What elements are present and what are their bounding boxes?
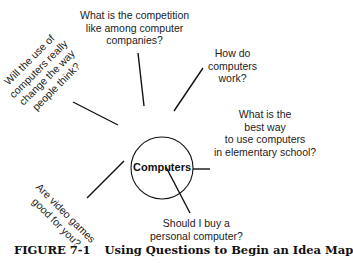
question-line: like among computer — [80, 22, 189, 35]
center-topic: Computers — [131, 161, 193, 173]
question-line: Should I buy a — [150, 217, 243, 230]
question-line: personal computer? — [150, 230, 243, 243]
spoke-how-work — [174, 68, 203, 111]
question-line: computers — [208, 60, 257, 73]
question-line: What is the — [214, 108, 316, 121]
figure-caption: FIGURE 7-1 Using Questions to Begin an I… — [14, 243, 353, 257]
question-buy: Should I buy a personal computer? — [150, 217, 243, 242]
spoke-competition — [138, 53, 144, 106]
spoke-buy — [166, 167, 190, 213]
spoke-video-games — [87, 161, 124, 198]
question-how-work: How do computers work? — [208, 47, 257, 85]
question-line: companies? — [80, 34, 189, 47]
figure-number: FIGURE 7-1 — [14, 243, 91, 257]
question-competition: What is the competition like among compu… — [80, 9, 189, 47]
question-line: What is the competition — [80, 9, 189, 22]
spoke-change-thinking — [73, 102, 118, 125]
question-line: in elementary school? — [214, 146, 316, 159]
question-line: How do — [208, 47, 257, 60]
figure-title: Using Questions to Begin an Idea Map — [105, 243, 353, 257]
question-line: to use computers — [214, 133, 316, 146]
question-line: work? — [208, 72, 257, 85]
question-line: best way — [214, 121, 316, 134]
question-best-way: What is the best way to use computers in… — [214, 108, 316, 158]
